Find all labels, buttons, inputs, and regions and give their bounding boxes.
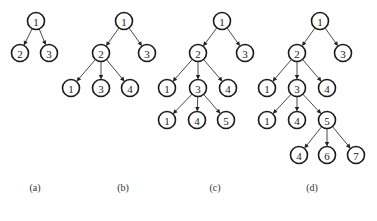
tree-node: 4 [122, 80, 139, 97]
tree-node: 5 [218, 112, 235, 129]
node-label: 4 [324, 83, 330, 95]
node-label: 1 [68, 83, 74, 95]
tree-node: 3 [93, 80, 110, 97]
tree-node: 4 [189, 112, 206, 129]
tree-node: 5 [319, 112, 336, 129]
tree-node: 1 [159, 112, 176, 129]
edge-c-23-to-c-231 [175, 94, 192, 112]
tree-node: 1 [259, 112, 276, 129]
node-label: 2 [98, 48, 104, 60]
node-label: 6 [324, 150, 330, 162]
caption-b: (b) [117, 182, 129, 194]
tree-node: 1 [312, 13, 329, 30]
tree-node: 2 [289, 45, 306, 62]
tree-expansion-diagram: 123123134123134145123134145467 (a) (b) (… [0, 0, 377, 221]
node-label: 3 [294, 83, 300, 95]
tree-node: 2 [93, 45, 110, 62]
caption-d: (d) [306, 182, 318, 194]
tree-node: 3 [41, 45, 58, 62]
tree-node: 7 [348, 147, 365, 164]
tree-node: 4 [319, 80, 336, 97]
node-label: 1 [164, 115, 170, 127]
node-label: 1 [164, 83, 170, 95]
node-label: 3 [195, 83, 201, 95]
arrowhead-icon [106, 41, 110, 46]
node-label: 2 [17, 48, 23, 60]
arrowhead-icon [203, 41, 207, 46]
tree-node: 4 [291, 147, 308, 164]
edge-c-r-to-c-2 [205, 28, 217, 44]
node-label: 1 [219, 16, 225, 28]
edge-a-r-to-a-2 [25, 29, 32, 43]
edge-d-2-to-d-21 [274, 59, 291, 79]
node-label: 4 [296, 150, 302, 162]
node-label: 5 [223, 115, 229, 127]
nodes-layer: 123123134123134145123134145467 [12, 13, 365, 164]
node-label: 2 [195, 48, 201, 60]
tree-node: 2 [12, 45, 29, 62]
edge-d-r-to-d-2 [304, 28, 315, 44]
node-label: 3 [98, 83, 104, 95]
tree-node: 1 [259, 80, 276, 97]
edge-d-23-to-d-231 [275, 94, 291, 111]
node-label: 5 [324, 115, 330, 127]
edge-b-r-to-b-3 [129, 28, 140, 44]
arrowhead-icon [138, 41, 142, 46]
tree-node: 3 [139, 45, 156, 62]
tree-node: 4 [289, 112, 306, 129]
tree-node: 3 [237, 45, 254, 62]
tree-node: 1 [116, 13, 133, 30]
node-label: 3 [242, 48, 248, 60]
tree-node: 3 [190, 80, 207, 97]
edge-d-235-to-d-2357 [332, 127, 348, 147]
arrowhead-icon [334, 41, 338, 46]
node-label: 1 [264, 83, 270, 95]
caption-c: (c) [209, 182, 220, 194]
arrowhead-icon [302, 41, 306, 46]
edge-c-2-to-c-21 [175, 59, 193, 79]
tree-node: 1 [214, 13, 231, 30]
tree-node: 1 [28, 13, 45, 30]
node-label: 4 [294, 115, 300, 127]
tree-node: 3 [335, 45, 352, 62]
tree-node: 4 [220, 80, 237, 97]
node-label: 3 [340, 48, 346, 60]
node-label: 4 [127, 83, 133, 95]
edge-a-r-to-a-3 [39, 29, 44, 42]
node-label: 4 [225, 83, 231, 95]
node-label: 1 [317, 16, 323, 28]
node-label: 7 [353, 150, 359, 162]
node-label: 2 [294, 48, 300, 60]
tree-node: 3 [289, 80, 306, 97]
edge-b-r-to-b-2 [108, 28, 119, 44]
edge-b-2-to-b-21 [78, 59, 95, 79]
edge-d-2-to-d-24 [303, 59, 320, 79]
node-label: 1 [121, 16, 127, 28]
arrowhead-icon [236, 41, 240, 46]
tree-node: 6 [319, 147, 336, 164]
tree-node: 1 [63, 80, 80, 97]
node-label: 4 [194, 115, 200, 127]
edge-b-2-to-b-24 [106, 60, 122, 80]
node-label: 3 [144, 48, 150, 60]
node-label: 1 [264, 115, 270, 127]
edge-c-2-to-c-24 [204, 59, 221, 79]
edge-c-r-to-c-3 [227, 28, 238, 44]
node-label: 1 [33, 16, 39, 28]
edge-c-23-to-c-235 [204, 94, 219, 111]
edge-d-235-to-d-2354 [306, 127, 322, 146]
edge-d-23-to-d-235 [303, 94, 319, 111]
tree-node: 1 [159, 80, 176, 97]
node-label: 3 [46, 48, 52, 60]
edge-d-r-to-d-3 [325, 28, 336, 44]
tree-node: 2 [190, 45, 207, 62]
caption-a: (a) [29, 182, 40, 194]
captions-layer: (a) (b) (c) (d) [29, 182, 317, 194]
